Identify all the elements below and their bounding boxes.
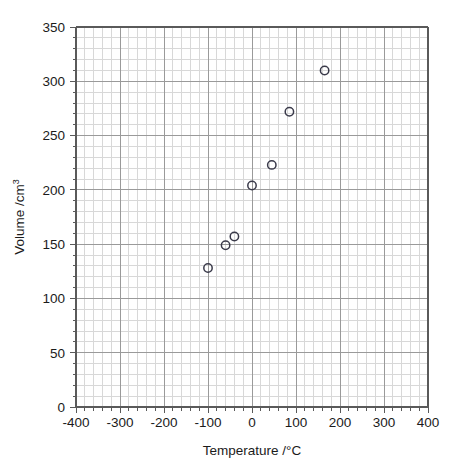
data-point-series: [204, 66, 329, 272]
x-tick-label: -100: [194, 415, 221, 430]
x-tick-label: -200: [150, 415, 177, 430]
x-tick-label: 0: [248, 415, 256, 430]
y-tick-label: 150: [42, 237, 65, 252]
chart-container: -400-300-200-1000100200300400 0501001502…: [0, 0, 469, 468]
x-axis-title: Temperature /°C: [203, 443, 302, 458]
y-axis-tick-labels: 050100150200250300350: [42, 20, 65, 415]
x-tick-label: 100: [285, 415, 308, 430]
y-axis-title-exponent: 3: [11, 179, 21, 184]
axis-tick-marks: [70, 27, 428, 413]
y-tick-label: 300: [42, 74, 65, 89]
x-tick-label: 200: [329, 415, 352, 430]
x-tick-label: 300: [373, 415, 396, 430]
y-tick-label: 350: [42, 20, 65, 35]
y-axis-title: Volume /cm3: [11, 179, 27, 255]
y-tick-label: 50: [50, 346, 65, 361]
y-tick-label: 0: [57, 400, 65, 415]
y-tick-label: 200: [42, 183, 65, 198]
x-axis-tick-labels: -400-300-200-1000100200300400: [62, 415, 439, 430]
y-tick-label: 250: [42, 128, 65, 143]
x-tick-label: 400: [417, 415, 440, 430]
y-axis-title-base: Volume /cm: [12, 184, 27, 255]
scatter-plot: -400-300-200-1000100200300400 0501001502…: [0, 0, 469, 468]
y-tick-label: 100: [42, 291, 65, 306]
data-point: [285, 107, 293, 115]
x-tick-label: -400: [62, 415, 89, 430]
x-tick-label: -300: [106, 415, 133, 430]
